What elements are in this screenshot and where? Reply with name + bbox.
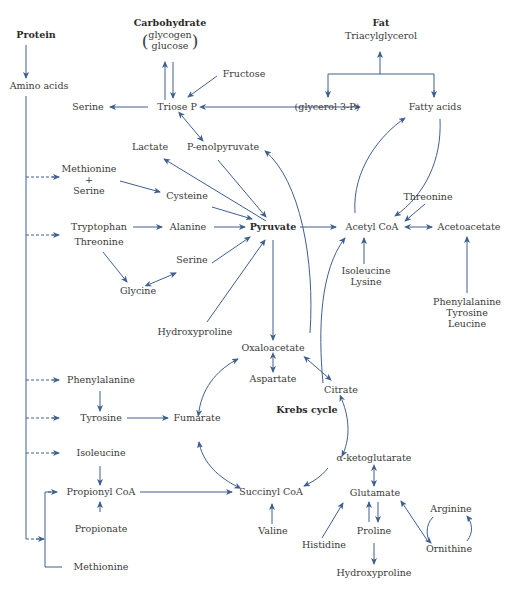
oxaloacetate-node: Oxaloacetate [241, 342, 304, 354]
close-paren: ) [192, 31, 199, 51]
carbohydrate-header: Carbohydrate [134, 17, 206, 29]
open-paren: ( [142, 31, 149, 51]
protein-header: Protein [16, 29, 55, 41]
pyruvate-node: Pyruvate [250, 221, 297, 233]
citrate-node: Citrate [324, 384, 358, 396]
triose-p-node: Triose P [157, 101, 197, 113]
fatty-acids-node: Fatty acids [409, 101, 462, 113]
threonine-left-node: Threonine [74, 236, 123, 248]
triacylglycerol-node: Triacylglycerol [345, 30, 417, 42]
hydroxyproline-bottom-node: Hydroxyproline [337, 567, 412, 579]
methionine-label: Methionine [62, 163, 117, 174]
phenylalanine-node: Phenylalanine [67, 374, 135, 386]
histidine-node: Histidine [302, 539, 346, 551]
propionyl-coa-node: Propionyl CoA [67, 486, 136, 498]
tyrosine-label: Tyrosine [433, 307, 501, 318]
threonine-right-node: Threonine [403, 191, 452, 203]
acetoacetate-node: Acetoacetate [438, 221, 501, 233]
glycerol-3p-node: (glycerol 3-P) [295, 101, 360, 113]
fumarate-node: Fumarate [173, 412, 220, 424]
serine-label: Serine [62, 185, 117, 196]
fructose-node: Fructose [223, 68, 266, 80]
alanine-node: Alanine [170, 221, 206, 233]
phe-tyr-leu-node: PhenylalanineTyrosineLeucine [433, 296, 501, 329]
phenylalanine-label: Phenylalanine [433, 296, 501, 307]
glucose-label: glucose [148, 40, 191, 51]
aspartate-node: Aspartate [250, 373, 297, 385]
krebs-cycle-label: Krebs cycle [276, 404, 337, 416]
carbohydrate-forms: (glycogenglucose) [142, 29, 199, 53]
lactate-node: Lactate [132, 141, 168, 153]
succinyl-coa-node: Succinyl CoA [239, 486, 303, 498]
cysteine-node: Cysteine [166, 190, 208, 202]
isoleucine-lysine-node: IsoleucineLysine [341, 265, 390, 287]
p-enolpyruvate-node: P-enolpyruvate [187, 141, 259, 153]
methionine-serine-node: Methionine+Serine [62, 163, 117, 196]
plus-label: + [62, 174, 117, 185]
isoleucine-label: Isoleucine [341, 265, 390, 276]
acetyl-coa-node: Acetyl CoA [346, 221, 399, 233]
tyrosine-node: Tyrosine [80, 412, 122, 424]
proline-node: Proline [357, 525, 391, 537]
isoleucine-node: Isoleucine [76, 447, 125, 459]
methionine-bottom-node: Methionine [74, 561, 129, 573]
leucine-label: Leucine [433, 318, 501, 329]
metabolic-pathway-diagram: Protein Carbohydrate (glycogenglucose) F… [0, 0, 519, 591]
glycine-node: Glycine [120, 285, 156, 297]
serine-mid-node: Serine [176, 254, 207, 266]
amino-acids-node: Amino acids [10, 80, 69, 92]
propionate-node: Propionate [75, 523, 128, 535]
hydroxyproline-mid-node: Hydroxyproline [158, 326, 233, 338]
fat-header: Fat [373, 17, 390, 29]
arginine-node: Arginine [430, 503, 471, 515]
alpha-ketoglutarate-node: α-ketoglutarate [337, 452, 412, 464]
serine-top-node: Serine [72, 101, 103, 113]
valine-node: Valine [258, 525, 287, 537]
glycogen-label: glycogen [148, 29, 191, 40]
tryptophan-node: Tryptophan [71, 221, 127, 233]
glutamate-node: Glutamate [350, 487, 400, 499]
lysine-label: Lysine [341, 276, 390, 287]
ornithine-node: Ornithine [426, 543, 472, 555]
